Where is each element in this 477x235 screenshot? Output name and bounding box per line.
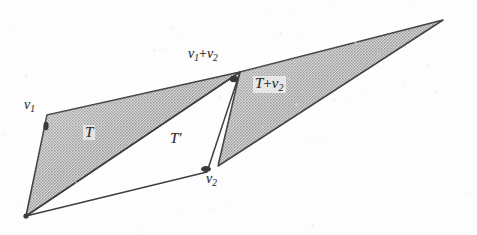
label-triangle-T-prime: T′: [170, 131, 182, 146]
vertex-v1-mark: [43, 122, 48, 130]
label-v1-plus-v2-operator: +: [199, 46, 207, 61]
label-v1: v1: [24, 98, 35, 114]
label-v1-sub: 1: [30, 104, 35, 114]
label-v2: v2: [206, 172, 217, 188]
label-v1-plus-v2: v1+v2: [188, 47, 218, 63]
vertex-origin-mark: [23, 213, 28, 218]
label-T-plus-v2-operator: +: [263, 75, 271, 91]
label-T-plus-v2-sub2: 2: [278, 82, 283, 93]
vertex-v1-plus-v2-mark: [230, 76, 239, 82]
math-figure: v1 v2 v1+v2 T T′ T+v2: [0, 0, 477, 235]
label-v1-plus-v2-sub2: 2: [213, 53, 218, 63]
triangle-T-plus-v2-shape: [218, 20, 443, 166]
label-triangle-T-plus-v2: T+v2: [253, 76, 286, 93]
label-v2-sub: 2: [212, 178, 217, 188]
label-triangle-T: T: [83, 125, 95, 140]
figure-canvas: [0, 0, 477, 235]
